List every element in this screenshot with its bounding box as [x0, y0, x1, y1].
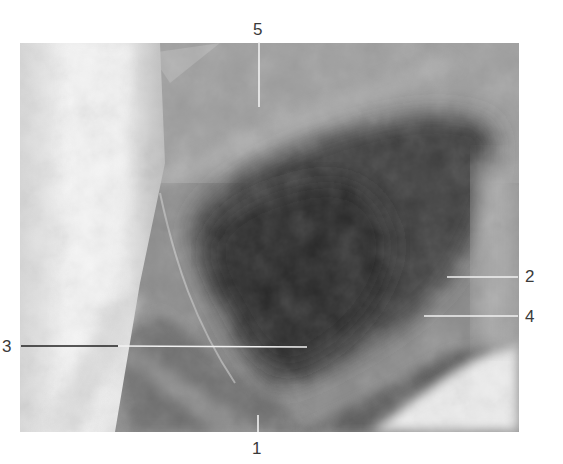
label-5: 5	[253, 21, 262, 38]
label-3: 3	[2, 338, 11, 355]
label-4: 4	[525, 308, 534, 325]
leader-lines	[0, 0, 563, 464]
label-1: 1	[252, 440, 261, 457]
label-2: 2	[525, 268, 534, 285]
leader-line-3-inner	[118, 346, 307, 347]
